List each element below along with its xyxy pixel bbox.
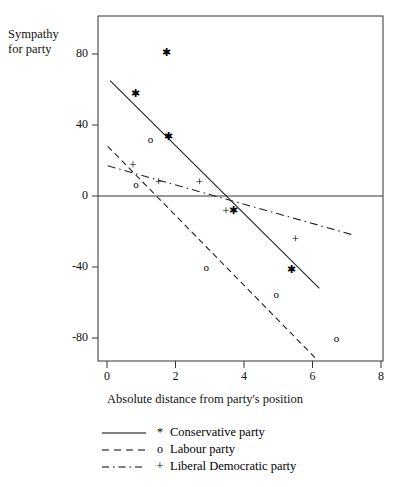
legend-line-dashdot: [98, 460, 150, 474]
x-tick-label: 0: [92, 369, 122, 384]
y-axis-label: Sympathy for party: [8, 27, 59, 57]
data-point-*: ✱: [229, 204, 238, 216]
data-point-+: +: [292, 231, 299, 246]
x-tick-label: 2: [161, 369, 191, 384]
regression-line-solid: [110, 81, 319, 289]
data-point-o: o: [334, 332, 340, 344]
data-point-o: o: [133, 178, 139, 190]
legend-item-conservative: * Conservative party: [98, 424, 388, 441]
y-tick-label: 40: [58, 117, 88, 132]
regression-line-dashdot: [108, 166, 354, 235]
chart-legend: * Conservative party o Labour party + Li…: [98, 424, 388, 475]
data-markers: ✱✱✱✱✱ooooo+++++: [129, 46, 339, 344]
x-tick-label: 8: [366, 369, 396, 384]
data-point-*: ✱: [164, 130, 173, 142]
data-point-+: +: [129, 157, 136, 172]
x-tick-label: 4: [229, 369, 259, 384]
plot-frame: [98, 16, 383, 361]
legend-label-labour: Labour party: [170, 442, 235, 457]
legend-line-solid: [98, 426, 150, 440]
regression-lines: [108, 81, 354, 360]
data-point-*: ✱: [162, 46, 171, 58]
legend-marker-plus: +: [150, 459, 170, 474]
x-tick-label: 6: [298, 369, 328, 384]
legend-item-labour: o Labour party: [98, 441, 388, 458]
y-tick-label: 0: [58, 188, 88, 203]
legend-line-dashed: [98, 443, 150, 457]
legend-item-liberal-democratic: + Liberal Democratic party: [98, 458, 388, 475]
data-point-+: +: [155, 174, 162, 189]
data-point-+: +: [222, 203, 229, 218]
sympathy-vs-distance-chart: Sympathy for party Absolute distance fro…: [0, 0, 410, 487]
legend-label-conservative: Conservative party: [170, 425, 265, 440]
legend-label-liberal-democratic: Liberal Democratic party: [170, 459, 296, 474]
regression-line-dashed: [108, 146, 317, 359]
data-point-*: ✱: [287, 263, 296, 275]
legend-marker-circle: o: [150, 442, 170, 457]
data-point-+: +: [196, 174, 203, 189]
data-point-o: o: [273, 288, 279, 300]
legend-marker-star: *: [150, 425, 170, 440]
data-point-*: ✱: [131, 87, 140, 99]
y-tick-label: 80: [58, 46, 88, 61]
x-axis-label: Absolute distance from party's position: [0, 392, 410, 407]
y-axis-label-line2: for party: [8, 42, 59, 57]
data-point-o: o: [204, 261, 210, 273]
y-tick-label: -40: [58, 259, 88, 274]
data-point-o: o: [148, 133, 154, 145]
y-axis-label-line1: Sympathy: [8, 27, 59, 42]
y-tick-label: -80: [58, 330, 88, 345]
